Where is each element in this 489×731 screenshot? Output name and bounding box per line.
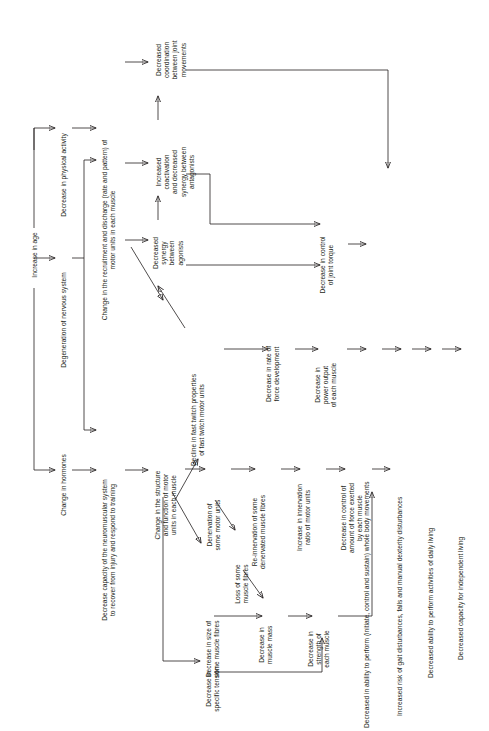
node-denervation-motor-units: Denervation of some motor units (206, 490, 222, 560)
node-degeneration-nervous-system: Degeneration of nervous system (60, 250, 68, 390)
node-increase-in-age: Increase in age (31, 210, 39, 300)
connector-lines (0, 0, 489, 731)
node-decreased-synergy-agonists: Decreased synergy between agonists (152, 223, 185, 283)
node-increase-innervation-ratio: Increase in innervation ratio of motor u… (296, 470, 312, 565)
node-decrease-muscle-mass: Decrease in muscle mass (258, 615, 274, 675)
node-decreased-ability-whole-body: Decreased in ability to perform (initiat… (363, 248, 371, 728)
node-decrease-joint-torque: Decrease in control of joint torque (319, 220, 335, 310)
node-decrease-rate-force-development: Decrease in rate of force development (265, 328, 281, 420)
node-reinnervation-muscle-fibres: Re-innervation of some denervated muscle… (251, 482, 267, 582)
node-decline-fast-twitch: Decline in fast twitch properties of fas… (190, 360, 206, 480)
node-change-in-hormones: Change in hormones (60, 440, 68, 530)
node-increased-coactivation: Increased coactivation and decreased syn… (155, 132, 196, 212)
node-change-structure-function: Change in the structure and function of … (154, 450, 179, 560)
node-decrease-control-force: Decrease in control of amount of force e… (340, 468, 365, 568)
node-decreased-coordination: Decreased coordination between joint mov… (155, 25, 188, 95)
node-decrease-physical-activity: Decrease in physical activity (60, 110, 68, 240)
node-decrease-power-output: Decrease in power output of each muscle (314, 350, 339, 420)
node-loss-muscle-fibres: Loss of some muscle fibres (234, 554, 250, 614)
node-increased-risk-gait: Increased risk of gait disturbances, fal… (396, 256, 404, 716)
node-decreased-capacity-independent-living: Decreased capacity for independent livin… (457, 260, 465, 660)
node-decreased-ability-daily-living: Decreased ability to perform activities … (427, 258, 435, 678)
node-decrease-strength: Decrease in strength of each muscle (307, 616, 332, 682)
node-decrease-specific-tension: Decrease in specific tension (205, 654, 221, 724)
node-decrease-recover-capacity: Decrease capacity of the neuromuscular s… (101, 460, 117, 640)
node-change-recruitment-discharge: Change in the recruitment and discharge … (101, 110, 117, 350)
diagram-canvas: Increase in age Decrease in physical act… (0, 0, 489, 731)
